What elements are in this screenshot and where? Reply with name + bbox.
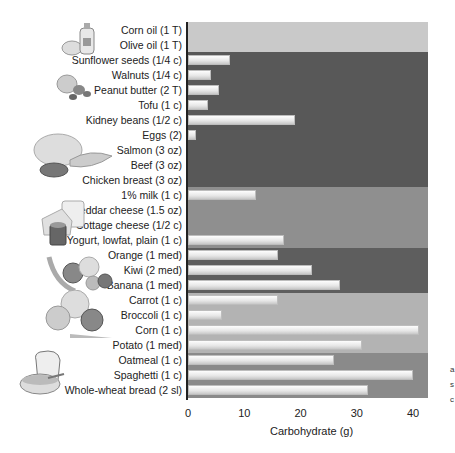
x-tick-label: 20	[294, 407, 306, 419]
nuts-icon	[55, 72, 93, 102]
bar	[188, 100, 208, 110]
category-label: Olive oil (1 T)	[120, 39, 182, 51]
x-axis-label: Carbohydrate (g)	[270, 425, 353, 437]
bar	[188, 250, 278, 260]
category-label: Cottage cheese (1/2 c)	[76, 219, 182, 231]
dairy-icon	[40, 197, 90, 249]
bar	[188, 130, 196, 140]
bar	[188, 295, 278, 305]
x-tick-label: 0	[185, 407, 191, 419]
bar	[188, 370, 413, 380]
bar	[188, 235, 284, 245]
category-label: Salmon (3 oz)	[117, 144, 182, 156]
bar	[188, 310, 222, 320]
cropped-side-text: s	[450, 380, 454, 389]
cropped-side-text: a	[450, 365, 454, 374]
category-label: Kidney beans (1/2 c)	[86, 114, 182, 126]
bar	[188, 265, 312, 275]
carbohydrate-bar-chart: Corn oil (1 T)Olive oil (1 T)Sunflower s…	[0, 0, 455, 453]
category-label: Peanut butter (2 T)	[94, 84, 182, 96]
category-label: Corn oil (1 T)	[121, 24, 182, 36]
bar	[188, 85, 219, 95]
bar	[188, 55, 230, 65]
category-label: Oatmeal (1 c)	[118, 354, 182, 366]
category-label: Kiwi (2 med)	[124, 264, 182, 276]
category-label: 1% milk (1 c)	[121, 189, 182, 201]
meat-fish-icon	[30, 130, 115, 182]
x-tick-label: 10	[238, 407, 250, 419]
category-label: Tofu (1 c)	[138, 99, 182, 111]
category-label: Banana (1 med)	[107, 279, 182, 291]
x-tick-label: 30	[351, 407, 363, 419]
bar	[188, 355, 334, 365]
cropped-side-text: c	[450, 395, 454, 404]
bar	[188, 190, 256, 200]
bar	[188, 385, 368, 395]
category-label: Eggs (2)	[142, 129, 182, 141]
category-label: Carrot (1 c)	[129, 294, 182, 306]
bar	[188, 280, 340, 290]
category-label: Corn (1 c)	[135, 324, 182, 336]
oil-bottle-icon	[60, 22, 100, 58]
bar	[188, 115, 295, 125]
category-label: Beef (3 oz)	[131, 159, 182, 171]
fruit-icon	[45, 253, 115, 295]
band-oils	[187, 22, 428, 52]
category-label: Orange (1 med)	[108, 249, 182, 261]
vegetables-icon	[40, 290, 115, 340]
category-label: Potato (1 med)	[113, 339, 182, 351]
bar	[188, 325, 419, 335]
x-tick-label: 40	[407, 407, 419, 419]
category-label: Spaghetti (1 c)	[114, 369, 182, 381]
category-label: Walnuts (1/4 c)	[112, 69, 182, 81]
bar	[188, 340, 362, 350]
bar	[188, 70, 211, 80]
category-label: Broccoli (1 c)	[121, 309, 182, 321]
bread-cereal-icon	[18, 350, 83, 398]
